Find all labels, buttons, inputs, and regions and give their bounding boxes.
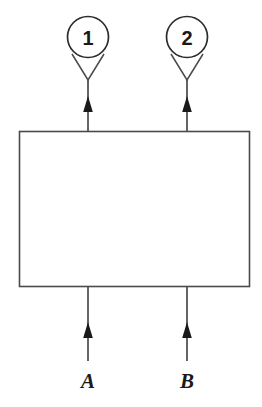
balloon-label-1: 1 xyxy=(82,27,93,49)
technical-diagram: 1 2 A B xyxy=(0,0,262,407)
input-label-b: B xyxy=(179,369,194,393)
input-label-a: A xyxy=(79,369,95,393)
main-block xyxy=(20,132,250,287)
diagram-canvas: 1 2 A B xyxy=(0,0,262,407)
balloon-label-2: 2 xyxy=(181,27,192,49)
